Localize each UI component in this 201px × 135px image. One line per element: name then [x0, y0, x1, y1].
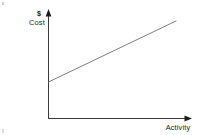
- y-axis-arrowhead: [46, 9, 52, 17]
- chart-canvas: $ Cost Activity: [0, 0, 201, 135]
- x-axis-arrowhead: [185, 116, 193, 122]
- x-axis-label: Activity: [166, 123, 191, 132]
- cost-activity-chart: $ Cost Activity: [0, 0, 201, 135]
- cost-line-series: [49, 21, 177, 82]
- y-axis-label: Cost: [29, 18, 45, 27]
- y-axis-currency-label: $: [37, 9, 41, 18]
- scan-artifact-top-left: [2, 2, 4, 5]
- scan-artifact-bottom-left: [2, 129, 4, 133]
